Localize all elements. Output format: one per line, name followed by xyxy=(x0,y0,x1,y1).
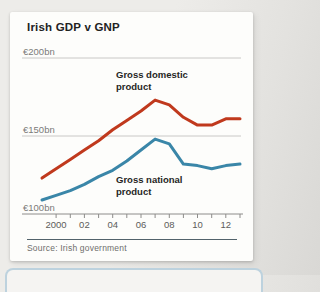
chart-card: Irish GDP v GNP €200bn€150bn€100bn200002… xyxy=(10,12,253,261)
source-text: Source: Irish government xyxy=(27,243,127,253)
source-divider xyxy=(27,239,237,240)
gdp-series-label: Gross domestic product xyxy=(116,69,188,94)
next-card-peek xyxy=(5,268,263,292)
ytick-label-100: €100bn xyxy=(23,202,55,213)
gnp-series-label: Gross national product xyxy=(116,174,183,199)
xtick-label-2006: 06 xyxy=(136,219,147,230)
xtick-label-2004: 04 xyxy=(107,219,118,230)
xtick-label-2010: 10 xyxy=(192,219,203,230)
xtick-label-2008: 08 xyxy=(164,219,175,230)
gdp-gnp-line-chart: €200bn€150bn€100bn2000020406081012 xyxy=(10,12,253,261)
ytick-label-200: €200bn xyxy=(23,46,55,57)
xtick-label-2012: 12 xyxy=(221,219,232,230)
xtick-label-2002: 02 xyxy=(79,219,90,230)
ytick-label-150: €150bn xyxy=(23,124,55,135)
gdp-line xyxy=(42,100,240,178)
xtick-label-2000: 2000 xyxy=(46,219,67,230)
